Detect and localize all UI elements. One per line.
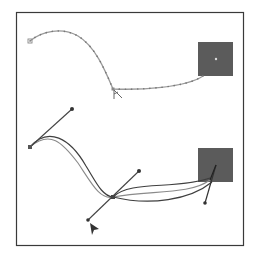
anchor-left[interactable] bbox=[28, 145, 32, 149]
handle-right-point[interactable] bbox=[203, 201, 207, 205]
handle-mid-b-point[interactable] bbox=[137, 169, 141, 173]
top-square-center-dot bbox=[215, 58, 217, 60]
anchor-mid[interactable] bbox=[111, 195, 115, 199]
handle-mid-a-point[interactable] bbox=[86, 218, 90, 222]
diagram-canvas bbox=[0, 0, 260, 264]
handle-left-point[interactable] bbox=[70, 107, 74, 111]
